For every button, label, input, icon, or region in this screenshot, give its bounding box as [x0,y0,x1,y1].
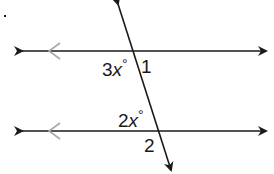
diagram-svg [0,0,274,174]
angle-label-1: 1 [141,57,152,76]
bullet-dot [4,15,6,17]
angle-label-2: 2 [144,136,155,155]
parallel-lines-diagram: 3x° 1 2x° 2 [0,0,274,174]
angle-label-3x: 3x° [102,57,128,79]
angle-label-2x: 2x° [118,108,144,130]
